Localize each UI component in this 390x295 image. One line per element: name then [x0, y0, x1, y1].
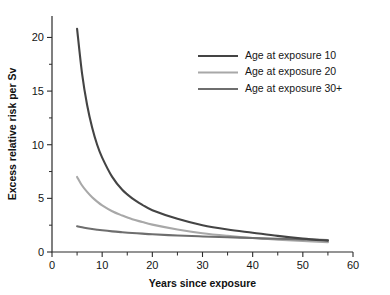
- y-tick-label: 5: [38, 192, 44, 204]
- x-tick-label: 40: [247, 259, 259, 271]
- y-tick-label: 20: [32, 31, 44, 43]
- x-tick-label: 30: [196, 259, 208, 271]
- chart-canvas: 051015200102030405060 Age at exposure 10…: [0, 0, 390, 295]
- chart-legend: Age at exposure 10Age at exposure 20Age …: [198, 49, 342, 94]
- x-tick-label: 10: [96, 259, 108, 271]
- y-axis-title: Excess relative risk per Sv: [6, 68, 18, 201]
- x-tick-label: 50: [297, 259, 309, 271]
- series-curves-group: [77, 29, 328, 242]
- x-axis-title: Years since exposure: [149, 277, 257, 289]
- chart-figure: 051015200102030405060 Age at exposure 10…: [0, 0, 390, 295]
- x-tick-label: 60: [347, 259, 359, 271]
- legend-label: Age at exposure 10: [245, 49, 336, 61]
- x-tick-label: 20: [146, 259, 158, 271]
- y-tick-label: 15: [32, 85, 44, 97]
- x-tick-label: 0: [49, 259, 55, 271]
- y-tick-label: 10: [32, 139, 44, 151]
- legend-label: Age at exposure 20: [245, 65, 336, 77]
- y-tick-label: 0: [38, 246, 44, 258]
- legend-label: Age at exposure 30+: [245, 82, 342, 94]
